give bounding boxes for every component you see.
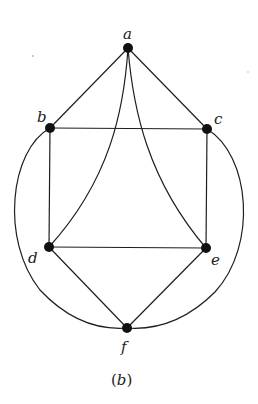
scan-speck — [32, 55, 34, 57]
node-label-c: c — [214, 110, 223, 128]
edge-d-f — [49, 247, 127, 328]
edge-b-c — [50, 128, 207, 129]
caption-letter: b — [117, 371, 127, 389]
node-d — [44, 242, 54, 252]
node-f — [122, 323, 132, 333]
edge-b-d — [49, 128, 50, 247]
edge-c-e — [206, 129, 207, 248]
node-label-e: e — [211, 251, 220, 269]
node-e — [201, 243, 211, 253]
edge-a-b — [50, 48, 128, 128]
edge-c-f — [127, 129, 244, 328]
edge-a-c — [128, 48, 207, 129]
edge-a-e — [128, 48, 206, 248]
edge-b-f — [15, 128, 127, 328]
caption-close-paren: ) — [126, 371, 132, 389]
node-a — [123, 43, 133, 53]
edge-a-d — [49, 48, 128, 247]
edge-d-e — [49, 247, 206, 248]
figure-caption: (b) — [111, 371, 132, 389]
node-label-f: f — [120, 338, 129, 356]
node-label-d: d — [28, 249, 38, 267]
edge-e-f — [127, 248, 206, 328]
graph-diagram: a b c d e f (b) — [0, 0, 258, 404]
scan-speck — [247, 71, 249, 73]
node-label-b: b — [37, 108, 47, 126]
node-label-a: a — [123, 25, 132, 43]
node-c — [202, 124, 212, 134]
